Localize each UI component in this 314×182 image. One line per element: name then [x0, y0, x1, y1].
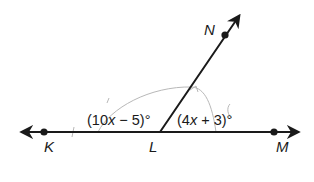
point-n [221, 31, 228, 38]
label-k: K [44, 138, 55, 155]
label-l: L [149, 138, 157, 155]
label-n: N [204, 21, 215, 38]
angle-label-nlm: (4x + 3)° [177, 112, 232, 128]
label-m: M [276, 138, 289, 155]
angle-label-kln: (10x − 5)° [87, 112, 150, 128]
angle-diagram: K L M N (10x − 5)° (4x + 3)° [0, 0, 314, 182]
point-m [270, 128, 277, 135]
point-k [40, 128, 47, 135]
